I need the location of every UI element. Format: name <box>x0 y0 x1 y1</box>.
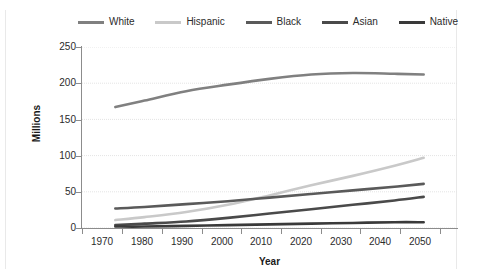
x-tick-label-2010: 2010 <box>239 237 283 247</box>
x-tick-mark-2 <box>162 229 163 234</box>
x-tick-label-1990: 1990 <box>160 237 204 247</box>
x-tick-mark-8 <box>400 229 401 234</box>
x-tick-label-2030: 2030 <box>319 237 363 247</box>
x-tick-label-1980: 1980 <box>120 237 164 247</box>
x-tick-mark-7 <box>360 229 361 234</box>
x-tick-label-2050: 2050 <box>398 237 442 247</box>
x-tick-label-2040: 2040 <box>358 237 402 247</box>
x-tick-mark-3 <box>202 229 203 234</box>
x-tick-mark-9 <box>440 229 441 234</box>
x-tick-mark-6 <box>321 229 322 234</box>
x-axis-title: Year <box>82 256 457 267</box>
x-tick-label-2020: 2020 <box>279 237 323 247</box>
x-tick-label-2000: 2000 <box>200 237 244 247</box>
x-tick-mark-4 <box>241 229 242 234</box>
x-axis-ticks: 1970 1980 1990 2000 2010 2020 2030 2040 … <box>0 0 482 279</box>
x-tick-mark-1 <box>122 229 123 234</box>
x-tick-mark-5 <box>281 229 282 234</box>
x-tick-label-1970: 1970 <box>80 237 124 247</box>
x-tick-mark-0 <box>82 229 83 234</box>
chart-figure: White Hispanic Black Asian Native 250 20… <box>0 0 482 279</box>
